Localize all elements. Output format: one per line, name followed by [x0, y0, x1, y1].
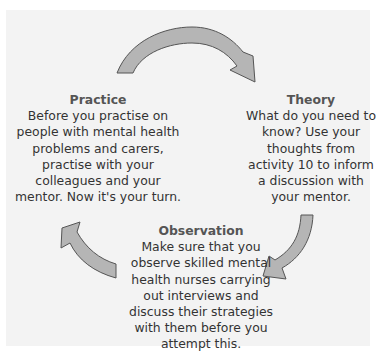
arrow-right-curved-icon: [117, 27, 255, 82]
stage-theory: Theory What do you need to know? Use you…: [246, 92, 376, 205]
stage-observation: Observation Make sure that you observe s…: [126, 223, 276, 353]
stage-title: Theory: [246, 92, 376, 108]
stage-description: What do you need to know? Use your thoug…: [246, 108, 376, 205]
stage-title: Observation: [126, 223, 276, 239]
stage-description: Before you practise on people with menta…: [10, 108, 186, 205]
stage-practice: Practice Before you practise on people w…: [10, 92, 186, 205]
arrow-up-curved-icon: [61, 222, 116, 278]
stage-title: Practice: [10, 92, 186, 108]
stage-description: Make sure that you observe skilled menta…: [126, 239, 276, 352]
